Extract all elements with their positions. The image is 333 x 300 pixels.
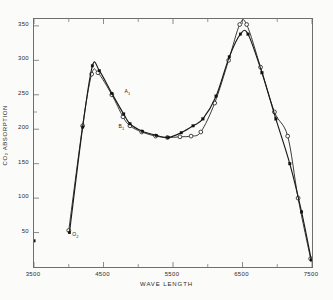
series-b-label: B1 — [118, 123, 124, 131]
figure-canvas: CO₂ ABSORPTION WAVE LENGTH 3500450055006… — [0, 0, 333, 300]
series-2 — [34, 30, 312, 261]
data-point-square — [167, 136, 170, 139]
y-tick-label: 300 — [9, 55, 29, 61]
data-point-square — [275, 118, 278, 121]
series-a-label: A1 — [125, 88, 131, 96]
series-b-label-subscript: 1 — [122, 126, 124, 131]
x-tick-label: 5500 — [158, 271, 186, 277]
x-tick-label: 7500 — [297, 271, 325, 277]
data-point-square — [310, 259, 312, 262]
data-point-circle — [189, 134, 193, 138]
series-1 — [67, 20, 312, 261]
x-tick-label: 4500 — [89, 271, 117, 277]
data-point-square — [68, 231, 71, 234]
data-point-square — [215, 95, 218, 98]
data-point-square — [288, 162, 291, 165]
data-point-square — [192, 124, 195, 127]
origin-marker-label-subscript: 2 — [76, 234, 78, 239]
series-line — [69, 20, 311, 259]
data-series-layer — [34, 20, 312, 262]
y-axis-title: CO₂ ABSORPTION — [2, 105, 8, 165]
y-tick-label: 250 — [9, 90, 29, 96]
data-point-square — [239, 33, 242, 36]
y-tick-label: 150 — [9, 159, 29, 165]
data-point-square — [141, 130, 144, 133]
x-tick-label: 6500 — [228, 271, 256, 277]
data-point-square — [155, 134, 158, 137]
data-point-square — [91, 65, 94, 68]
data-point-square — [122, 113, 125, 116]
data-point-square — [202, 118, 205, 121]
data-point-square — [81, 126, 84, 129]
data-point-square — [228, 56, 231, 59]
data-point-square — [180, 131, 183, 134]
plot-svg — [34, 19, 312, 267]
y-tick-label: 200 — [9, 124, 29, 130]
data-point-circle — [245, 23, 249, 27]
data-point-circle — [199, 130, 203, 134]
data-point-square — [247, 33, 250, 36]
y-tick-label: 50 — [9, 228, 29, 234]
series-a-label-subscript: 1 — [128, 91, 130, 96]
data-point-square — [261, 71, 264, 74]
axis-ticks — [34, 19, 312, 267]
origin-marker-label: O2 — [72, 231, 79, 239]
x-tick-label: 3500 — [19, 271, 47, 277]
y-tick-label: 100 — [9, 193, 29, 199]
data-point-square — [300, 211, 303, 214]
x-axis-title: WAVE LENGTH — [0, 281, 333, 287]
data-point-circle — [178, 135, 182, 139]
data-point-circle — [238, 23, 242, 27]
data-point-square — [34, 240, 35, 243]
series-line — [69, 30, 311, 260]
data-point-square — [129, 122, 132, 125]
data-point-circle — [286, 134, 290, 138]
data-point-square — [111, 92, 114, 95]
data-point-square — [98, 69, 101, 72]
y-tick-label: 350 — [9, 21, 29, 27]
